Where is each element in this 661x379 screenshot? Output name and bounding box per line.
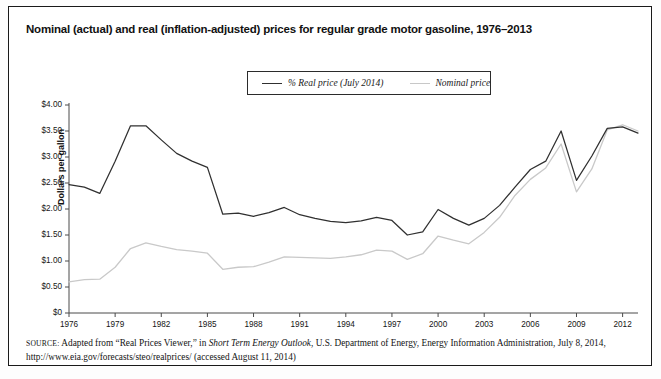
y-tick-label: $0 — [20, 308, 62, 317]
chart-legend: % Real price (July 2014) Nominal price — [247, 71, 491, 95]
chart-svg — [9, 7, 653, 367]
chart-plot-area: Dollars per gallon $4.00$3.50$3.00$2.50$… — [9, 7, 653, 367]
x-tick-label: 1976 — [49, 320, 89, 329]
y-tick-label: $3.50 — [20, 126, 62, 135]
legend-swatch-nominal-icon — [410, 83, 430, 84]
legend-label-real: % Real price (July 2014) — [288, 78, 384, 88]
page-title: Nominal (actual) and real (inflation-adj… — [26, 23, 646, 35]
y-tick-label: $2.00 — [20, 204, 62, 213]
y-axis-label: Dollars per gallon — [56, 107, 66, 227]
series-line-real-price — [69, 126, 638, 235]
y-tick-label: $4.00 — [20, 100, 62, 109]
source-line-2: http://www.eia.gov/forecasts/steo/realpr… — [26, 352, 296, 362]
x-tick-label: 1988 — [234, 320, 274, 329]
legend-swatch-real-icon — [262, 83, 282, 84]
source-text-2: , U.S. Department of Energy, Energy Info… — [311, 338, 606, 348]
figure-frame: Nominal (actual) and real (inflation-adj… — [8, 6, 652, 366]
x-tick-label: 1997 — [372, 320, 412, 329]
y-tick-label: $1.00 — [20, 256, 62, 265]
x-tick-label: 1982 — [141, 320, 181, 329]
figure-container: Nominal (actual) and real (inflation-adj… — [0, 0, 661, 379]
x-tick-label: 2006 — [510, 320, 550, 329]
y-tick-label: $2.50 — [20, 178, 62, 187]
series-line-nominal-price — [69, 125, 638, 282]
y-tick-label: $3.00 — [20, 152, 62, 161]
y-tick-label: $1.50 — [20, 230, 62, 239]
x-tick-label: 1985 — [187, 320, 227, 329]
legend-label-nominal: Nominal price — [436, 78, 491, 88]
x-tick-label: 2009 — [556, 320, 596, 329]
x-tick-label: 1979 — [95, 320, 135, 329]
legend-entry-real: % Real price (July 2014) — [262, 78, 384, 88]
y-tick-label: $0.50 — [20, 282, 62, 291]
source-prefix: SOURCE: — [26, 339, 59, 348]
x-tick-label: 1994 — [326, 320, 366, 329]
x-tick-label: 2012 — [603, 320, 643, 329]
axis-lines — [69, 103, 638, 313]
x-tick-label: 2003 — [464, 320, 504, 329]
source-text-1: Adapted from “Real Prices Viewer,” in — [59, 338, 208, 348]
source-italic-1: Short Term Energy Outlook — [209, 338, 311, 348]
x-tick-label: 2000 — [418, 320, 458, 329]
source-note: SOURCE: Adapted from “Real Prices Viewer… — [26, 337, 642, 363]
x-tick-label: 1991 — [280, 320, 320, 329]
legend-entry-nominal: Nominal price — [410, 78, 491, 88]
